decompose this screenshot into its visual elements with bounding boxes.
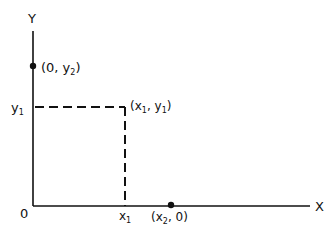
origin-label: 0 bbox=[20, 206, 28, 221]
y1-tick-label: y1 bbox=[11, 100, 24, 117]
y-axis-label: Y bbox=[27, 11, 36, 26]
point-0-y2-marker bbox=[30, 63, 36, 69]
point-x2-0-label: (x2, 0) bbox=[151, 210, 188, 226]
point-0-y2-label: (0, y2) bbox=[41, 60, 80, 77]
x-axis-label: X bbox=[315, 199, 324, 214]
point-x1-y1-label: (x1, y1) bbox=[130, 99, 171, 115]
coordinate-diagram: Y X 0 (0, y2) (x1, y1) (x2, 0) y1 x1 bbox=[0, 0, 336, 235]
point-x2-0-marker bbox=[168, 202, 174, 208]
x1-tick-label: x1 bbox=[119, 209, 131, 225]
